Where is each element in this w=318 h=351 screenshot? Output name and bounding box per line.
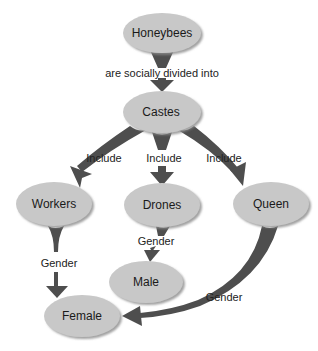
node-label: Workers — [32, 197, 76, 211]
edge-label-castes-workers: Include — [86, 152, 121, 164]
node-label: Drones — [143, 198, 182, 212]
arrow-castes-to-workers — [77, 126, 146, 172]
arrowhead-workers-to-female — [46, 286, 68, 298]
edge-label-castes-queen: Include — [206, 152, 241, 164]
edge-label-honeybees-castes: are socially divided into — [105, 67, 219, 79]
arrowhead-queen-to-female — [122, 306, 142, 326]
arrow-castes-to-queen — [178, 126, 238, 172]
edge-label-workers-female: Gender — [41, 257, 78, 269]
node-female[interactable]: Female — [44, 295, 120, 337]
arrow-castes-to-drones — [152, 132, 172, 150]
node-label: Male — [133, 275, 159, 289]
node-queen[interactable]: Queen — [233, 182, 309, 226]
edge-label-castes-drones: Include — [146, 152, 181, 164]
arrow-workers-to-female — [48, 226, 64, 252]
edge-label-drones-male: Gender — [138, 235, 175, 247]
node-label: Castes — [142, 105, 179, 119]
node-honeybees[interactable]: Honeybees — [123, 13, 201, 53]
node-label: Queen — [253, 197, 289, 211]
node-workers[interactable]: Workers — [16, 182, 92, 226]
node-castes[interactable]: Castes — [123, 91, 201, 133]
edge-label-queen-female: Gender — [206, 291, 243, 303]
node-drones[interactable]: Drones — [124, 183, 200, 227]
node-label: Honeybees — [132, 26, 193, 40]
concept-map: are socially divided into Include Includ… — [0, 0, 318, 351]
node-label: Female — [62, 309, 102, 323]
node-male[interactable]: Male — [109, 261, 183, 303]
